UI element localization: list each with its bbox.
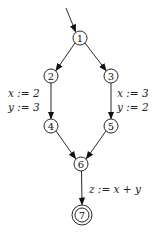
node-4: 4 — [44, 119, 58, 133]
svg-text:7: 7 — [79, 210, 85, 221]
node-3: 3 — [104, 69, 118, 83]
svg-text:3: 3 — [108, 71, 114, 82]
edge-label-3-5-y: y := 2 — [116, 101, 149, 113]
edge-start-1 — [66, 8, 76, 32]
edge-1-3 — [85, 43, 106, 71]
svg-text:4: 4 — [48, 121, 54, 132]
edge-4-6 — [56, 131, 76, 159]
edge-label-6-7: z := x + y — [88, 183, 142, 195]
node-2: 2 — [44, 69, 58, 83]
node-1: 1 — [73, 31, 87, 45]
control-flow-graph: x := 2 y := 3 x := 3 y := 2 z := x + y 1… — [0, 0, 158, 236]
edge-1-2 — [56, 43, 75, 71]
edge-label-2-4-y: y := 3 — [7, 101, 40, 113]
svg-text:6: 6 — [78, 159, 84, 170]
svg-text:5: 5 — [108, 121, 114, 132]
edge-label-3-5-x: x := 3 — [117, 87, 149, 99]
node-7-final: 7 — [72, 205, 92, 225]
node-5: 5 — [104, 119, 118, 133]
edge-6-7 — [82, 171, 83, 205]
node-6: 6 — [74, 157, 88, 171]
edge-5-6 — [87, 131, 107, 159]
svg-text:2: 2 — [48, 71, 54, 82]
edge-label-2-4-x: x := 2 — [8, 87, 40, 99]
svg-text:1: 1 — [77, 33, 83, 44]
